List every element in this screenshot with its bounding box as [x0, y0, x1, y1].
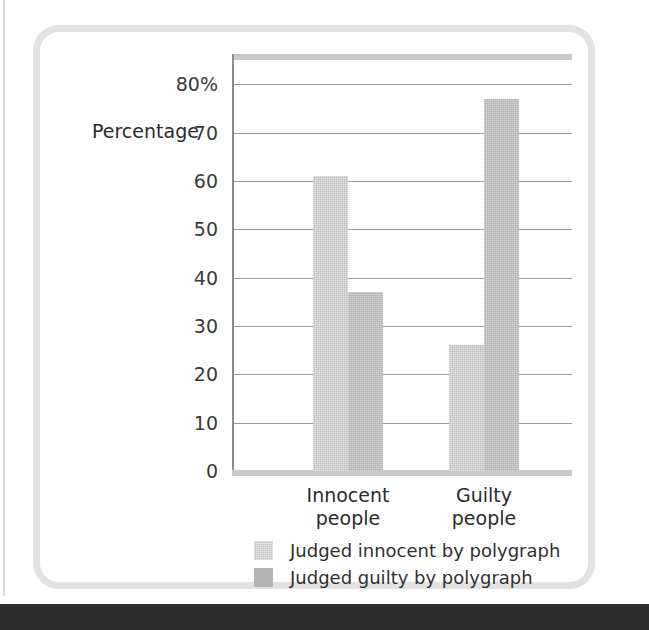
page-bottom-band [0, 604, 649, 630]
gridline [234, 181, 572, 182]
legend-item: Judged guilty by polygraph [254, 564, 584, 591]
y-tick-label: 70 [194, 122, 218, 144]
plot-region [232, 54, 572, 476]
legend-swatch-icon [254, 568, 273, 587]
y-tick-label: 50 [194, 218, 218, 240]
gridline [234, 326, 572, 327]
chart-legend: Judged innocent by polygraphJudged guilt… [254, 537, 584, 591]
gridline [234, 423, 572, 424]
gridline [234, 229, 572, 230]
gridline [234, 278, 572, 279]
x-category-label: Innocent people [307, 484, 390, 530]
gridline [234, 133, 572, 134]
y-tick-label: 60 [194, 170, 218, 192]
gridline [234, 84, 572, 85]
y-axis-line [232, 54, 234, 476]
bar [348, 292, 383, 471]
bar [313, 176, 348, 471]
y-tick-label: 0 [206, 460, 218, 482]
plot-top-rule [232, 54, 572, 60]
y-tick-label: 80% [176, 73, 218, 95]
y-tick-label: 10 [194, 412, 218, 434]
y-tick-label: 30 [194, 315, 218, 337]
y-tick-label: 20 [194, 363, 218, 385]
plot-baseline-rule [232, 470, 572, 476]
y-tick-label: 40 [194, 267, 218, 289]
legend-label: Judged guilty by polygraph [290, 567, 533, 588]
bar-chart: Percentage 80%706050403020100 Judged inn… [40, 32, 602, 596]
figure-frame: Percentage 80%706050403020100 Judged inn… [33, 25, 595, 589]
y-axis-tick-labels: 80%706050403020100 [40, 54, 232, 476]
legend-swatch-icon [254, 541, 273, 560]
x-category-label: Guilty people [452, 484, 516, 530]
bar [449, 345, 484, 471]
page-edge-line [3, 0, 5, 604]
legend-label: Judged innocent by polygraph [290, 540, 560, 561]
bar [484, 99, 519, 471]
gridline [234, 374, 572, 375]
plot-box [232, 54, 572, 476]
legend-item: Judged innocent by polygraph [254, 537, 584, 564]
